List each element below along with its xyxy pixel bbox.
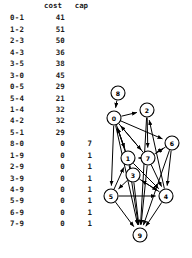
cell-pair: 4-9 bbox=[0, 184, 39, 195]
cell-pair: 5-1 bbox=[0, 127, 39, 138]
table-row: 4-232 bbox=[0, 115, 96, 126]
node-label-7: 7 bbox=[146, 155, 150, 162]
graph-node-7[interactable]: 7 bbox=[141, 151, 155, 165]
cell-cost: 0 bbox=[39, 207, 67, 218]
cell-pair: 8-0 bbox=[0, 138, 39, 149]
cell-cost: 51 bbox=[39, 24, 67, 35]
table-row: 0-141 bbox=[0, 12, 96, 23]
graph-node-2[interactable]: 2 bbox=[140, 103, 154, 117]
column-header-cost: cost bbox=[39, 0, 67, 12]
cell-pair: 4-3 bbox=[0, 47, 39, 58]
cell-cost: 50 bbox=[39, 35, 67, 46]
node-label-3: 3 bbox=[131, 172, 135, 179]
cell-cap: 1 bbox=[67, 207, 96, 218]
cell-cap: 1 bbox=[67, 184, 96, 195]
cell-cost: 32 bbox=[39, 104, 67, 115]
cell-cap bbox=[67, 12, 96, 23]
cost-cap-table: cost cap 0-1411-2512-3504-3363-5383-0450… bbox=[0, 0, 96, 230]
cell-pair: 1-4 bbox=[0, 104, 39, 115]
cell-pair: 5-4 bbox=[0, 93, 39, 104]
cell-pair: 3-0 bbox=[0, 70, 39, 81]
cell-pair: 3-9 bbox=[0, 173, 39, 184]
column-header-cap: cap bbox=[67, 0, 96, 12]
cell-cap bbox=[67, 115, 96, 126]
graph-edge-2-7 bbox=[147, 118, 148, 148]
table-row: 1-901 bbox=[0, 150, 96, 161]
table-row: 2-350 bbox=[0, 35, 96, 46]
cell-cost: 41 bbox=[39, 12, 67, 23]
table-row: 3-045 bbox=[0, 70, 96, 81]
cell-cost: 36 bbox=[39, 47, 67, 58]
cell-cost: 0 bbox=[39, 184, 67, 195]
table-row: 2-901 bbox=[0, 161, 96, 172]
graph-node-4[interactable]: 4 bbox=[159, 189, 173, 203]
cell-pair: 0-1 bbox=[0, 12, 39, 23]
cell-pair: 0-5 bbox=[0, 81, 39, 92]
node-label-1: 1 bbox=[126, 155, 130, 162]
table-row: 3-901 bbox=[0, 173, 96, 184]
cell-pair: 3-5 bbox=[0, 58, 39, 69]
cell-cap bbox=[67, 58, 96, 69]
table-row: 8-007 bbox=[0, 138, 96, 149]
node-label-6: 6 bbox=[170, 140, 174, 147]
cell-pair: 5-9 bbox=[0, 195, 39, 206]
graph-edge-6-7 bbox=[157, 147, 166, 152]
graph-edge-0-6 bbox=[121, 121, 162, 139]
cell-cost: 45 bbox=[39, 70, 67, 81]
graph-edge-3-5 bbox=[119, 180, 128, 189]
cell-cap: 7 bbox=[67, 138, 96, 149]
cell-cap bbox=[67, 35, 96, 46]
graph-node-1[interactable]: 1 bbox=[121, 151, 135, 165]
cell-cap: 1 bbox=[67, 150, 96, 161]
cell-cost: 0 bbox=[39, 173, 67, 184]
table-row: 6-901 bbox=[0, 207, 96, 218]
cell-cost: 0 bbox=[39, 150, 67, 161]
cell-cap bbox=[67, 24, 96, 35]
cell-pair: 2-3 bbox=[0, 35, 39, 46]
graph-node-9[interactable]: 9 bbox=[133, 228, 147, 242]
table-row: 5-421 bbox=[0, 93, 96, 104]
cell-cap bbox=[67, 104, 96, 115]
cell-cost: 29 bbox=[39, 81, 67, 92]
cell-cap bbox=[67, 47, 96, 58]
cell-cap: 1 bbox=[67, 195, 96, 206]
table-body: 0-1411-2512-3504-3363-5383-0450-5295-421… bbox=[0, 12, 96, 229]
graph-node-0[interactable]: 0 bbox=[107, 111, 121, 125]
table-header: cost cap bbox=[0, 0, 96, 12]
graph-edge-4-9 bbox=[146, 202, 162, 226]
node-label-9: 9 bbox=[138, 232, 142, 239]
graph-edge-0-2 bbox=[121, 112, 137, 116]
cell-cap: 1 bbox=[67, 218, 96, 229]
table-header-row: cost cap bbox=[0, 0, 96, 12]
graph-node-3[interactable]: 3 bbox=[126, 168, 140, 182]
cell-cost: 32 bbox=[39, 115, 67, 126]
table-row: 7-901 bbox=[0, 218, 96, 229]
cell-cap bbox=[67, 70, 96, 81]
node-label-2: 2 bbox=[145, 107, 149, 114]
graph-edge-8-0 bbox=[116, 101, 117, 108]
cell-pair: 7-9 bbox=[0, 218, 39, 229]
cell-cost: 38 bbox=[39, 58, 67, 69]
cell-cost: 29 bbox=[39, 127, 67, 138]
table-row: 3-538 bbox=[0, 58, 96, 69]
graph-node-8[interactable]: 8 bbox=[111, 86, 125, 100]
cell-cap bbox=[67, 127, 96, 138]
cell-pair: 1-9 bbox=[0, 150, 39, 161]
cell-cost: 0 bbox=[39, 218, 67, 229]
graph-node-6[interactable]: 6 bbox=[165, 136, 179, 150]
node-label-8: 8 bbox=[116, 90, 120, 97]
cell-cost: 0 bbox=[39, 138, 67, 149]
directed-graph-figure: 8026173549 bbox=[96, 0, 192, 258]
table-row: 5-901 bbox=[0, 195, 96, 206]
graph-edge-5-9 bbox=[116, 202, 134, 227]
node-label-0: 0 bbox=[112, 115, 117, 122]
graph-node-5[interactable]: 5 bbox=[104, 189, 118, 203]
table-row: 0-529 bbox=[0, 81, 96, 92]
cell-pair: 6-9 bbox=[0, 207, 39, 218]
cell-cap bbox=[67, 93, 96, 104]
cell-pair: 1-2 bbox=[0, 24, 39, 35]
cell-cost: 0 bbox=[39, 195, 67, 206]
cell-cap: 1 bbox=[67, 161, 96, 172]
table-row: 1-251 bbox=[0, 24, 96, 35]
node-label-4: 4 bbox=[164, 193, 169, 200]
